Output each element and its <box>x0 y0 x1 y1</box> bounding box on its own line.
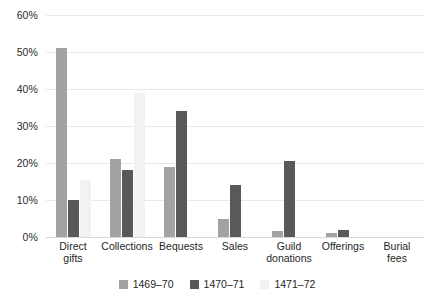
bar-set <box>164 15 199 237</box>
x-axis-category-line: fees <box>371 252 423 264</box>
bar-set <box>326 15 361 237</box>
bar[interactable] <box>80 180 91 237</box>
bar[interactable] <box>110 159 121 237</box>
legend-label: 1470–71 <box>204 279 245 290</box>
bar-group <box>316 15 370 237</box>
x-axis-category-label: Directgifts <box>46 240 100 276</box>
x-axis-category-line: Bequests <box>155 240 207 252</box>
bar[interactable] <box>272 231 283 237</box>
x-axis: DirectgiftsCollectionsBequestsSalesGuild… <box>46 240 424 276</box>
x-axis-category-label: Bequests <box>154 240 208 276</box>
bar[interactable] <box>284 161 295 237</box>
x-axis-category-label: Sales <box>208 240 262 276</box>
bar-groups <box>46 15 424 237</box>
x-axis-category-label: Burialfees <box>370 240 424 276</box>
x-axis-category-label: Offerings <box>316 240 370 276</box>
bar[interactable] <box>56 48 67 237</box>
plot-area <box>46 15 424 237</box>
legend-item[interactable]: 1470–71 <box>190 279 245 290</box>
bar-group <box>262 15 316 237</box>
x-axis-category-line: Burial <box>371 240 423 252</box>
x-axis-category-line: Offerings <box>317 240 369 252</box>
y-axis-tick-label: 60% <box>17 10 38 21</box>
bar[interactable] <box>218 219 229 238</box>
x-axis-category-line: gifts <box>47 252 99 264</box>
legend-swatch-icon <box>119 280 128 289</box>
legend-item[interactable]: 1471–72 <box>260 279 315 290</box>
bar-group <box>100 15 154 237</box>
bar-set <box>380 15 415 237</box>
x-axis-category-line: donations <box>263 252 315 264</box>
bar[interactable] <box>230 185 241 237</box>
bar[interactable] <box>164 167 175 237</box>
bar-group <box>208 15 262 237</box>
legend-swatch-icon <box>260 280 269 289</box>
x-axis-category-label: Guilddonations <box>262 240 316 276</box>
x-axis-category-label: Collections <box>100 240 154 276</box>
bar-chart: 0%10%20%30%40%50%60% DirectgiftsCollecti… <box>0 0 434 304</box>
y-axis-tick-label: 20% <box>17 158 38 169</box>
bar-group <box>154 15 208 237</box>
bar[interactable] <box>122 170 133 237</box>
x-axis-category-line: Sales <box>209 240 261 252</box>
legend-item[interactable]: 1469–70 <box>119 279 174 290</box>
bar-set <box>272 15 307 237</box>
x-axis-category-line: Collections <box>101 240 153 252</box>
gridline <box>46 237 424 238</box>
y-axis-tick-label: 10% <box>17 195 38 206</box>
y-axis: 0%10%20%30%40%50%60% <box>0 0 46 260</box>
bar[interactable] <box>68 200 79 237</box>
x-axis-category-line: Guild <box>263 240 315 252</box>
y-axis-tick-label: 0% <box>23 232 38 243</box>
x-axis-category-line: Direct <box>47 240 99 252</box>
bar[interactable] <box>338 230 349 237</box>
bar[interactable] <box>134 93 145 237</box>
bar-set <box>110 15 145 237</box>
y-axis-tick-label: 50% <box>17 47 38 58</box>
bar-set <box>218 15 253 237</box>
bar-set <box>56 15 91 237</box>
legend-swatch-icon <box>190 280 199 289</box>
y-axis-tick-label: 40% <box>17 84 38 95</box>
bar-group <box>46 15 100 237</box>
bar-group <box>370 15 424 237</box>
bar[interactable] <box>326 233 337 237</box>
y-axis-tick-label: 30% <box>17 121 38 132</box>
legend-label: 1469–70 <box>133 279 174 290</box>
legend-label: 1471–72 <box>274 279 315 290</box>
chart-legend: 1469–701470–711471–72 <box>0 279 434 290</box>
bar[interactable] <box>176 111 187 237</box>
